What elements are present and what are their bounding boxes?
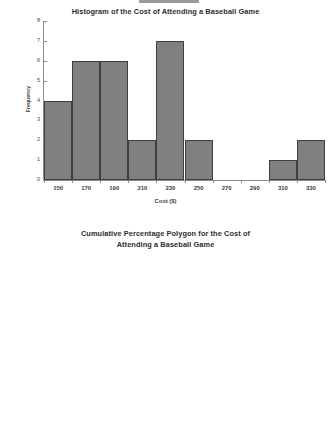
histogram-plot-area: 8 7 6 5 4 3 2 1 <box>43 21 325 181</box>
histogram-bar <box>156 41 184 180</box>
histogram-chart: Histogram of the Cost of Attending a Bas… <box>0 0 331 212</box>
tick-mark <box>156 180 157 183</box>
histogram-bar <box>297 140 325 180</box>
histogram-ytick-label: 3 <box>37 116 40 122</box>
tick-mark <box>185 180 186 183</box>
tick-mark <box>325 180 326 183</box>
tick-mark <box>269 180 270 183</box>
histogram-ytick-label: 1 <box>37 156 40 162</box>
histogram-ytick-label: 6 <box>37 57 40 63</box>
tick-mark <box>100 180 101 183</box>
cumulative-polygon-chart: Cumulative Percentage Polygon for the Co… <box>0 212 331 441</box>
histogram-ytick-label: 5 <box>37 77 40 83</box>
histogram-bar <box>269 160 297 180</box>
tick-mark <box>213 180 214 183</box>
histogram-ytick-label: 2 <box>37 136 40 142</box>
histogram-ytick-label: 0 <box>37 176 40 182</box>
tick-mark <box>297 180 298 183</box>
cumulative-polygon-title: Cumulative Percentage Polygon for the Co… <box>0 229 331 250</box>
histogram-bar <box>72 61 100 180</box>
cumulative-polygon-title-line2: Attending a Baseball Game <box>0 240 331 251</box>
histogram-xtick-label: 270 <box>222 185 232 191</box>
histogram-ytick-label: 7 <box>37 37 40 43</box>
tick-mark <box>44 81 47 82</box>
histogram-xtick-label: 210 <box>137 185 147 191</box>
histogram-bar <box>100 61 128 180</box>
histogram-xtick-label: 290 <box>250 185 260 191</box>
tick-mark <box>44 180 45 183</box>
histogram-xtick-label: 190 <box>109 185 119 191</box>
histogram-bar <box>185 140 213 180</box>
histogram-xtick-label: 230 <box>166 185 176 191</box>
tick-mark <box>72 180 73 183</box>
histogram-xtick-label: 310 <box>278 185 288 191</box>
histogram-xtick-label: 330 <box>306 185 316 191</box>
tick-mark <box>44 41 47 42</box>
histogram-xtick-label: 250 <box>194 185 204 191</box>
histogram-title: Histogram of the Cost of Attending a Bas… <box>0 7 331 16</box>
cumulative-polygon-title-line1: Cumulative Percentage Polygon for the Co… <box>0 229 331 240</box>
histogram-xtick-label: 150 <box>53 185 63 191</box>
histogram-y-axis-title: Frequency <box>25 69 31 129</box>
histogram-ytick-label: 4 <box>37 97 40 103</box>
tick-mark <box>44 61 47 62</box>
tick-mark <box>241 180 242 183</box>
tick-mark <box>128 180 129 183</box>
histogram-bar <box>44 101 72 181</box>
histogram-bar <box>128 140 156 180</box>
tick-mark <box>44 21 47 22</box>
histogram-ytick-label: 8 <box>37 17 40 23</box>
histogram-x-axis-title: Cost ($) <box>0 198 331 204</box>
histogram-xtick-label: 170 <box>81 185 91 191</box>
